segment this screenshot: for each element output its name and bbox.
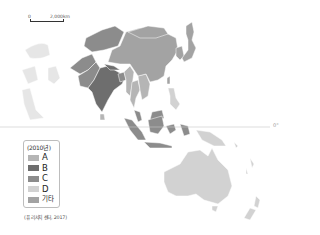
- scale-line: [30, 21, 63, 22]
- equator-label: 0°: [273, 122, 279, 128]
- scale-tick-start: [30, 19, 31, 22]
- legend-item-a: A: [28, 153, 48, 162]
- legend-item-etc: 기타: [28, 195, 54, 204]
- legend-item-d: D: [28, 185, 49, 194]
- legend-label-c: C: [42, 174, 48, 183]
- legend-title: (2010년): [27, 143, 51, 152]
- region-sri-lanka: [100, 114, 105, 120]
- region-australia: [164, 148, 232, 204]
- legend-item-c: C: [28, 174, 48, 183]
- legend-label-a: A: [42, 153, 48, 162]
- source-note: (퓨 리서치 센터, 2017): [24, 213, 67, 220]
- legend-swatch-c: [28, 176, 39, 182]
- region-new-zealand: [244, 196, 260, 220]
- legend-swatch-d: [28, 186, 39, 192]
- region-tasmania: [212, 206, 218, 212]
- map-legend: (2010년) A B C D 기타: [23, 140, 60, 208]
- region-middle-east: [22, 43, 60, 120]
- scale-tick-end: [63, 19, 64, 22]
- legend-label-d: D: [42, 185, 49, 194]
- region-papua-new-guinea: [196, 130, 226, 146]
- legend-swatch-b: [28, 165, 39, 171]
- legend-swatch-etc: [28, 197, 39, 203]
- legend-item-b: B: [28, 164, 48, 173]
- legend-label-etc: 기타: [42, 195, 54, 204]
- legend-label-b: B: [42, 164, 48, 173]
- region-taiwan: [167, 76, 170, 84]
- region-pacific-islands: [234, 142, 254, 174]
- region-japan: [182, 22, 196, 62]
- scale-bar: 0 2,000km: [28, 14, 68, 26]
- region-philippines: [168, 88, 180, 110]
- legend-swatch-a: [28, 155, 39, 161]
- region-indonesia: [124, 116, 190, 148]
- scale-end-label: 2,000km: [50, 14, 70, 19]
